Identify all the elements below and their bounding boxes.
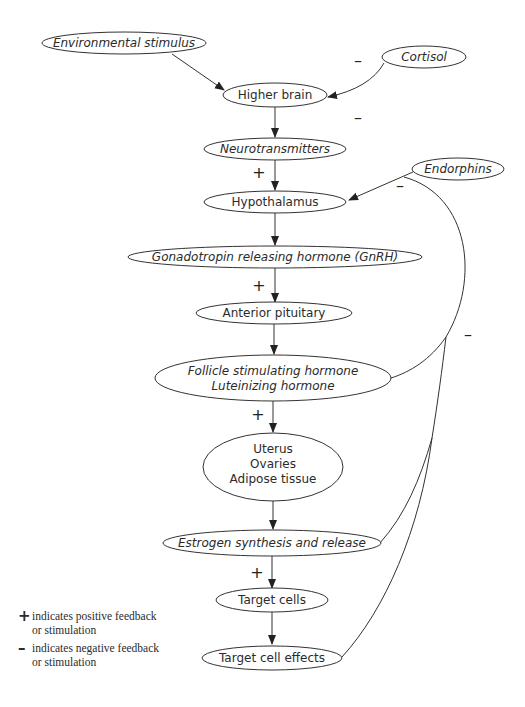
node-neurotransmitters: Neurotransmitters [204, 138, 346, 160]
estrogen-regulation-diagram: Environmental stimulus Cortisol Higher b… [0, 0, 525, 707]
node-label: Hypothalamus [232, 195, 319, 209]
node-label: Gonadotropin releasing hormone (GnRH) [152, 250, 398, 264]
legend: + indicates positive feedback or stimula… [18, 609, 218, 673]
node-endorphins: Endorphins [412, 158, 504, 180]
node-higher-brain: Higher brain [223, 83, 327, 107]
minus-sign-cortisol: – [354, 51, 362, 70]
node-anterior-pituitary: Anterior pituitary [196, 302, 352, 324]
node-label: Target cell effects [218, 651, 325, 665]
plus-icon: + [18, 609, 32, 623]
plus-sign-gnrh: + [252, 276, 265, 295]
node-label-line1: Follicle stimulating hormone [188, 364, 359, 378]
node-label: Anterior pituitary [223, 306, 326, 320]
node-label-line2: Ovaries [250, 457, 296, 471]
minus-sign-feedback-loop: – [464, 325, 472, 344]
node-cortisol: Cortisol [382, 46, 466, 68]
node-target-cell-effects: Target cell effects [202, 646, 342, 670]
node-estrogen: Estrogen synthesis and release [163, 530, 381, 556]
node-environmental-stimulus: Environmental stimulus [42, 32, 206, 54]
node-target-cells: Target cells [216, 588, 328, 612]
node-tissues: Uterus Ovaries Adipose tissue [203, 433, 343, 501]
minus-icon: – [18, 641, 32, 655]
legend-negative-line1: indicates negative feedback [32, 642, 159, 654]
node-label: Higher brain [238, 88, 313, 102]
node-fsh-lh: Follicle stimulating hormone Luteinizing… [155, 355, 391, 401]
legend-negative-line2: or stimulation [32, 656, 96, 668]
node-label: Endorphins [424, 162, 492, 176]
node-label: Neurotransmitters [220, 142, 330, 156]
edge-environment-to-higher-brain [172, 54, 224, 90]
node-label: Cortisol [401, 50, 447, 64]
node-hypothalamus: Hypothalamus [204, 191, 346, 213]
node-label-line3: Adipose tissue [230, 472, 317, 486]
minus-sign-endorphins: – [396, 176, 404, 195]
legend-positive-line2: or stimulation [32, 624, 96, 636]
node-label: Environmental stimulus [53, 36, 195, 50]
plus-sign-neurotransmitters: + [252, 163, 265, 182]
legend-positive: + indicates positive feedback or stimula… [18, 609, 218, 637]
minus-sign-higher-brain: – [354, 108, 362, 127]
node-label-line2: Luteinizing hormone [211, 379, 334, 393]
node-label: Target cells [237, 593, 306, 607]
plus-sign-estrogen: + [250, 563, 263, 582]
legend-positive-line1: indicates positive feedback [32, 610, 157, 622]
node-label: Estrogen synthesis and release [178, 536, 366, 550]
feedback-curve-estrogen [380, 438, 432, 543]
plus-sign-fsh-lh: + [251, 405, 264, 424]
node-gnrh: Gonadotropin releasing hormone (GnRH) [128, 246, 422, 268]
node-label-line1: Uterus [253, 442, 293, 456]
feedback-curve-fsh-to-endorphins [391, 177, 465, 378]
legend-negative: – indicates negative feedback or stimula… [18, 641, 218, 669]
